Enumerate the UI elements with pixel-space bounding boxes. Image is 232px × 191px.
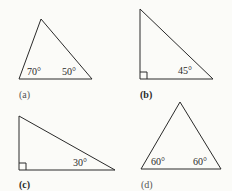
triangle-c-angle: 30° [73, 157, 87, 168]
triangle-d-angle-left: 60° [151, 156, 165, 167]
triangle-c: 30° (c) [19, 116, 115, 191]
triangle-a-angle-right: 50° [62, 66, 76, 77]
triangle-b: 45° (b) [140, 9, 213, 101]
triangle-b-angle: 45° [178, 65, 192, 76]
triangles-diagram: 70° 50° (a) 45° (b) 30° (c) 60° 60° (d) [0, 0, 232, 191]
triangle-d: 60° 60° (d) [141, 102, 221, 191]
caption-b: (b) [140, 89, 152, 101]
triangle-a: 70° 50° (a) [19, 19, 92, 101]
triangle-c-shape [19, 116, 115, 170]
triangle-a-angle-left: 70° [27, 66, 41, 77]
caption-c: (c) [19, 179, 30, 191]
caption-d: (d) [141, 179, 153, 191]
caption-a: (a) [19, 89, 30, 101]
triangle-d-angle-right: 60° [193, 156, 207, 167]
right-angle-marker-b [140, 72, 147, 79]
triangle-b-shape [140, 9, 213, 79]
right-angle-marker-c [19, 163, 26, 170]
